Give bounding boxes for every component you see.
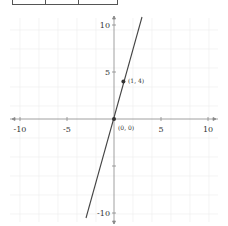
x-arrow-left-icon bbox=[12, 118, 15, 121]
point-label: (1, 4) bbox=[128, 77, 144, 84]
y-arrow-up-icon bbox=[113, 16, 116, 19]
y-tick-label: 10 bbox=[100, 21, 110, 30]
point-1-4 bbox=[121, 79, 125, 83]
x-tick-label: 10 bbox=[203, 125, 213, 134]
coordinate-plane: -10 -5 5 10 10 5 -10 (0, 0) (1, 4) bbox=[0, 0, 228, 226]
y-tick-label: -10 bbox=[97, 209, 110, 218]
x-arrow-right-icon bbox=[213, 118, 216, 121]
point-label: (0, 0) bbox=[118, 124, 134, 131]
x-tick-label: -5 bbox=[63, 125, 71, 134]
x-tick-label: 5 bbox=[158, 125, 163, 134]
point-origin bbox=[112, 117, 116, 121]
x-tick-label: -10 bbox=[14, 125, 27, 134]
y-arrow-down-icon bbox=[113, 221, 116, 224]
y-tick-label: 5 bbox=[105, 68, 110, 77]
